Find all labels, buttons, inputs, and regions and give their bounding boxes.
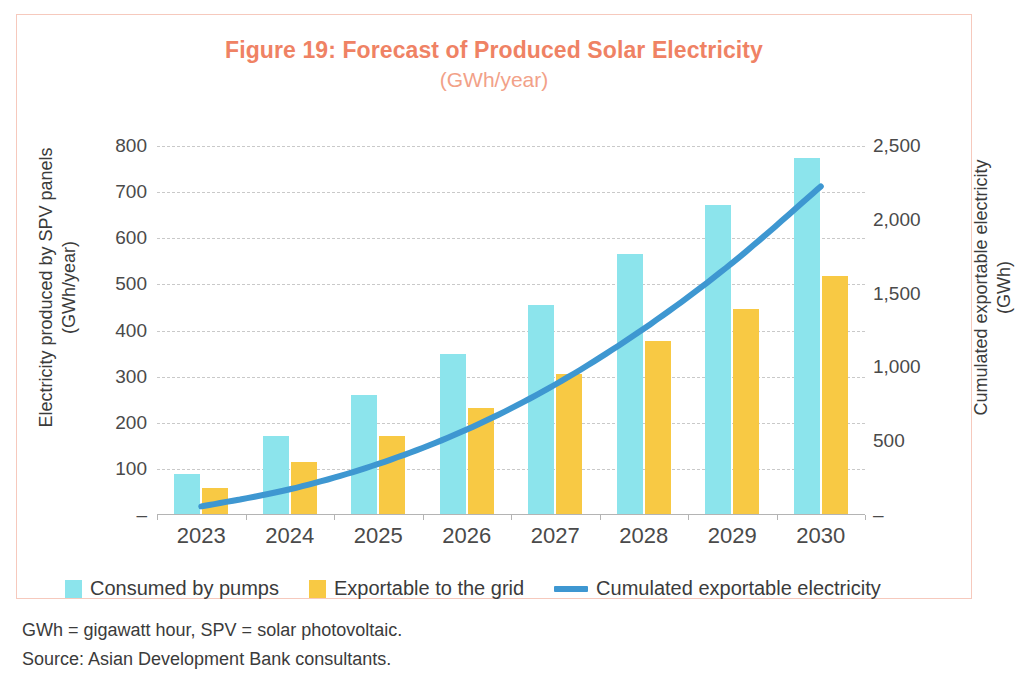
x-axis-tick-label-2027: 2027 bbox=[531, 523, 580, 549]
y-axis-right-tick-label: 1,000 bbox=[873, 356, 921, 378]
y-axis-right-title: Cumulated exportable electricity (GWh) bbox=[970, 143, 1015, 433]
legend-line-swatch-icon bbox=[554, 586, 588, 592]
page-title: Figure 19: Forecast of Produced Solar El… bbox=[17, 37, 971, 64]
x-axis-labels: 20232024202520262027202820292030 bbox=[157, 523, 865, 557]
y-axis-left-tick-label: 400 bbox=[115, 320, 147, 342]
legend-label: Cumulated exportable electricity bbox=[596, 577, 881, 600]
x-axis-tick-label-2028: 2028 bbox=[619, 523, 668, 549]
legend-square-swatch-icon bbox=[309, 580, 326, 598]
x-axis-tick bbox=[423, 515, 424, 520]
chart-legend: Consumed by pumpsExportable to the gridC… bbox=[65, 577, 955, 600]
y-axis-left-tick-label: – bbox=[136, 504, 147, 526]
x-axis-tick bbox=[688, 515, 689, 520]
x-axis-tick-label-2030: 2030 bbox=[796, 523, 845, 549]
y-axis-right-labels: –5001,0001,5002,0002,500 bbox=[873, 146, 931, 515]
y-axis-left-tick-label: 600 bbox=[115, 227, 147, 249]
y-axis-right-tick-label: 2,000 bbox=[873, 209, 921, 231]
figure-title-block: Figure 19: Forecast of Produced Solar El… bbox=[17, 37, 971, 93]
abbreviations-note: GWh = gigawatt hour, SPV = solar photovo… bbox=[22, 616, 402, 645]
legend-label: Consumed by pumps bbox=[90, 577, 279, 600]
figure-frame: Figure 19: Forecast of Produced Solar El… bbox=[16, 14, 972, 599]
y-axis-left-title: Electricity produced by SPV panels (GWh/… bbox=[35, 143, 80, 433]
chart-plot-area bbox=[157, 146, 865, 515]
y-axis-right-tick-label: 1,500 bbox=[873, 283, 921, 305]
x-axis-tick bbox=[334, 515, 335, 520]
figure-subtitle: (GWh/year) bbox=[17, 66, 971, 93]
x-axis-tick bbox=[157, 515, 158, 520]
source-note: Source: Asian Development Bank consultan… bbox=[22, 645, 402, 674]
x-axis-tick bbox=[600, 515, 601, 520]
y-axis-left-labels: –100200300400500600700800 bbox=[89, 146, 147, 515]
y-axis-left-tick-label: 200 bbox=[115, 412, 147, 434]
x-axis-tick bbox=[511, 515, 512, 520]
cumulated-line-chart bbox=[157, 146, 865, 515]
legend-square-swatch-icon bbox=[65, 580, 82, 598]
y-axis-right-tick-label: 500 bbox=[873, 430, 905, 452]
y-axis-left-tick-label: 700 bbox=[115, 181, 147, 203]
y-axis-left-tick-label: 300 bbox=[115, 366, 147, 388]
figure-notes: GWh = gigawatt hour, SPV = solar photovo… bbox=[22, 616, 402, 674]
cumulated-line-path bbox=[201, 186, 821, 506]
x-axis-tick bbox=[777, 515, 778, 520]
y-axis-right-tick-label: 2,500 bbox=[873, 135, 921, 157]
legend-label: Exportable to the grid bbox=[334, 577, 524, 600]
x-axis-tick bbox=[865, 515, 866, 520]
y-axis-left-tick-label: 800 bbox=[115, 135, 147, 157]
y-axis-left-tick-label: 500 bbox=[115, 273, 147, 295]
line-series-layer bbox=[157, 146, 865, 515]
x-axis-tick-label-2024: 2024 bbox=[265, 523, 314, 549]
legend-item-0: Consumed by pumps bbox=[65, 577, 279, 600]
x-axis-tick-label-2026: 2026 bbox=[442, 523, 491, 549]
legend-item-1: Exportable to the grid bbox=[309, 577, 524, 600]
legend-item-2: Cumulated exportable electricity bbox=[554, 577, 881, 600]
y-axis-left-tick-label: 100 bbox=[115, 458, 147, 480]
x-axis-tick-label-2023: 2023 bbox=[177, 523, 226, 549]
y-axis-right-tick-label: – bbox=[873, 504, 884, 526]
x-axis-tick-label-2025: 2025 bbox=[354, 523, 403, 549]
x-axis-tick bbox=[246, 515, 247, 520]
x-axis-tick-label-2029: 2029 bbox=[708, 523, 757, 549]
